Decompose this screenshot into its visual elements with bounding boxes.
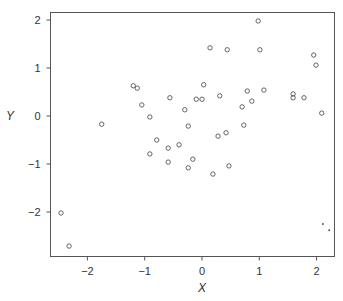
x-tick-label: 1 bbox=[256, 265, 262, 277]
y-tick-label: 2 bbox=[34, 14, 40, 26]
x-axis-label: X bbox=[197, 281, 207, 295]
y-axis-label: Y bbox=[6, 109, 15, 123]
x-tick-label: 2 bbox=[314, 265, 320, 277]
scatter-plot: −2−1012 −2−1012 X Y bbox=[0, 0, 343, 301]
y-tick-label: 0 bbox=[34, 110, 40, 122]
y-tick-label: −2 bbox=[28, 206, 41, 218]
x-tick-label: −1 bbox=[138, 265, 151, 277]
x-tick-label: −2 bbox=[81, 265, 94, 277]
data-point-dot bbox=[322, 223, 324, 225]
y-tick-label: 1 bbox=[34, 62, 40, 74]
background bbox=[0, 0, 343, 301]
x-tick-label: 0 bbox=[199, 265, 205, 277]
y-tick-label: −1 bbox=[28, 158, 41, 170]
data-point-dot bbox=[328, 229, 330, 231]
